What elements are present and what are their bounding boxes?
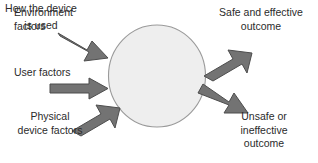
label-safe-and-effective-outcome: Safe and effective outcome [208, 6, 314, 33]
label-user-factors: User factors [14, 66, 102, 80]
diagram-canvas: Environment factors User factors Physica… [0, 0, 318, 163]
label-physical-device-factors: Physical device factors [2, 110, 98, 137]
arrow-safe-outcome [204, 50, 252, 81]
arrow-unsafe-outcome [198, 84, 248, 113]
arrow-environment-factors [58, 33, 108, 61]
label-unsafe-or-ineffective-outcome: Unsafe or ineffective outcome [216, 110, 312, 151]
arrow-user-factors [50, 78, 108, 99]
center-circle-shape [109, 25, 206, 127]
label-environment-factors: Environment factors [14, 6, 106, 33]
